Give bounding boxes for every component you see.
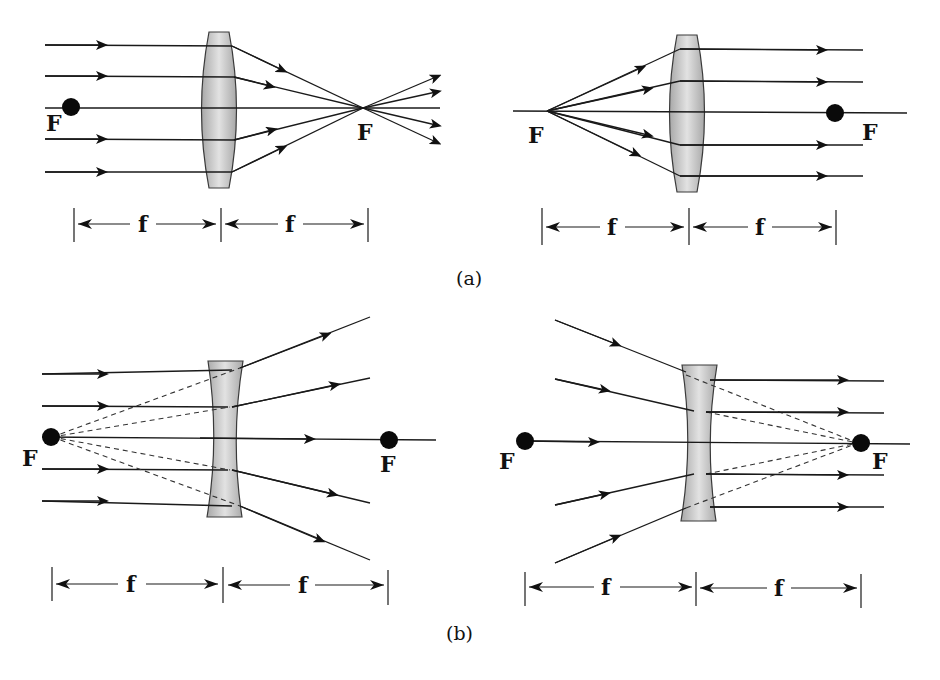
focal-label-left: F	[22, 445, 38, 471]
focal-point-dot	[380, 431, 398, 449]
panel-a-left: F F f f	[45, 32, 440, 242]
focal-point-dot	[516, 432, 534, 450]
focal-label-right: F	[872, 448, 888, 474]
focal-point-dot	[62, 98, 80, 116]
panel-a-right: F F f f	[513, 35, 907, 245]
dimension-label-f: f	[774, 575, 785, 601]
convex-lens	[670, 35, 705, 192]
refracted-rays	[232, 46, 436, 172]
dimension-label-f: f	[607, 214, 618, 240]
principal-axis	[513, 111, 907, 113]
dimension-label-f: f	[126, 571, 137, 597]
focal-point-dot	[852, 434, 870, 452]
dimension-label-f: f	[298, 572, 309, 598]
focal-length-dimension: f f	[525, 572, 861, 608]
focal-label-right: F	[862, 119, 878, 145]
focal-label-left: F	[46, 110, 62, 136]
focal-label-left: F	[528, 122, 544, 148]
focal-point-dot	[42, 428, 60, 446]
focal-point-dot	[826, 104, 844, 122]
focal-length-dimension: f f	[74, 208, 368, 242]
dimension-label-f: f	[601, 574, 612, 600]
focal-label-left: F	[499, 448, 515, 474]
caption-b: (b)	[446, 622, 473, 644]
panel-b-left: F F f f	[22, 317, 436, 605]
panel-b-right: F F f f	[499, 320, 910, 608]
lens-ray-diagram: F F f f	[0, 0, 940, 680]
dimension-label-f: f	[138, 211, 149, 237]
focal-label-right: F	[380, 451, 396, 477]
dimension-label-f: f	[755, 214, 766, 240]
focal-label-right: F	[357, 119, 373, 145]
convex-lens	[202, 32, 237, 188]
focal-length-dimension: f f	[542, 208, 836, 245]
dimension-label-f: f	[285, 211, 296, 237]
caption-a: (a)	[456, 267, 482, 289]
incoming-rays	[547, 49, 680, 176]
focal-length-dimension: f f	[52, 567, 388, 605]
